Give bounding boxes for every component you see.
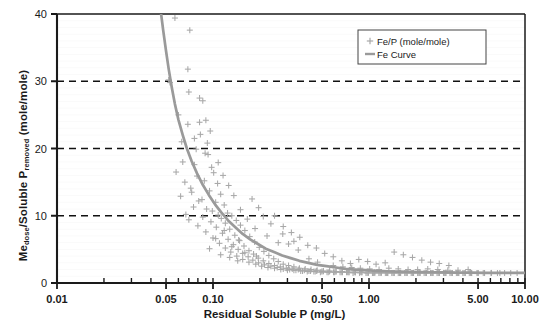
data-point-plus xyxy=(253,261,259,267)
x-tick-label: 0.05 xyxy=(155,293,176,305)
data-point-plus xyxy=(221,202,227,208)
data-point-plus xyxy=(189,189,195,195)
data-point-plus xyxy=(193,146,199,152)
data-point-plus xyxy=(186,89,192,95)
data-point-plus xyxy=(322,250,328,256)
data-point-plus xyxy=(218,191,224,197)
data-point-plus xyxy=(207,246,213,252)
chart-figure: 0102030400.010.050.100.501.005.0010.00Fe… xyxy=(0,0,549,331)
data-point-plus xyxy=(203,229,209,235)
data-point-plus xyxy=(280,224,286,230)
data-point-plus xyxy=(400,252,406,258)
data-point-plus xyxy=(205,152,211,158)
data-point-plus xyxy=(236,237,242,243)
data-point-plus xyxy=(180,159,186,165)
data-point-plus xyxy=(297,234,303,240)
x-tick-label: 0.10 xyxy=(202,293,223,305)
data-point-plus xyxy=(272,213,278,219)
data-point-plus xyxy=(226,182,232,188)
data-point-plus xyxy=(260,213,266,219)
data-point-plus xyxy=(436,260,442,266)
data-point-plus xyxy=(271,256,277,262)
data-point-plus xyxy=(222,245,228,251)
data-point-plus xyxy=(306,256,312,262)
data-point-plus xyxy=(182,179,188,185)
data-point-plus xyxy=(314,268,320,274)
data-point-plus xyxy=(409,254,415,260)
data-point-plus xyxy=(200,98,206,104)
legend-label-fe-curve: Fe Curve xyxy=(377,49,416,60)
y-tick-label: 20 xyxy=(35,143,47,155)
data-point-plus xyxy=(237,207,243,213)
data-point-plus xyxy=(211,170,217,176)
data-point-plus xyxy=(240,256,246,262)
x-tick-label: 0.01 xyxy=(46,293,67,305)
data-point-plus xyxy=(295,247,301,253)
data-point-plus xyxy=(229,213,235,219)
y-axis-label: Medose/Soluble Premoved (mole/mole) xyxy=(12,0,36,331)
data-point-plus xyxy=(197,131,203,137)
x-tick-label: 1.00 xyxy=(358,293,379,305)
data-point-plus xyxy=(216,240,222,246)
data-point-plus xyxy=(185,121,191,127)
data-point-plus xyxy=(172,15,178,21)
data-point-plus xyxy=(231,193,237,199)
data-point-plus xyxy=(330,254,336,260)
y-axis-label-tail: (mole/mole) xyxy=(17,70,29,139)
data-point-plus xyxy=(382,260,388,266)
y-axis-label-sub-dose: dose xyxy=(22,227,31,245)
data-point-plus xyxy=(208,219,214,225)
data-point-plus xyxy=(365,258,371,264)
data-point-plus xyxy=(225,236,231,242)
data-point-plus xyxy=(215,180,221,186)
data-point-plus xyxy=(196,198,202,204)
data-point-plus xyxy=(288,230,294,236)
data-point-plus xyxy=(220,172,226,178)
data-point-plus xyxy=(446,263,452,269)
data-point-plus xyxy=(241,243,247,249)
data-point-plus xyxy=(187,27,193,33)
x-tick-label: 5.00 xyxy=(467,293,488,305)
data-point-plus xyxy=(232,232,238,238)
data-point-plus xyxy=(391,249,397,255)
data-point-plus xyxy=(245,254,251,260)
data-point-plus xyxy=(356,256,362,262)
data-point-plus xyxy=(419,257,425,263)
data-point-plus xyxy=(256,205,262,211)
x-tick-label: 0.50 xyxy=(311,293,332,305)
y-tick-label: 10 xyxy=(35,210,47,222)
data-point-plus xyxy=(227,226,233,232)
chart-canvas: 0102030400.010.050.100.501.005.0010.00Fe… xyxy=(0,0,549,331)
data-point-plus xyxy=(203,117,209,123)
data-point-plus xyxy=(373,261,379,267)
data-point-plus xyxy=(237,222,243,228)
data-point-plus xyxy=(264,233,270,239)
data-point-plus xyxy=(286,241,292,247)
data-point-plus xyxy=(275,258,281,264)
data-point-plus xyxy=(259,263,265,269)
data-point-plus xyxy=(266,252,272,258)
data-point-plus xyxy=(428,259,434,265)
data-point-plus xyxy=(244,216,250,222)
data-point-plus xyxy=(188,185,194,191)
data-point-plus xyxy=(234,253,240,259)
data-point-plus xyxy=(173,169,179,175)
data-point-plus xyxy=(305,242,311,248)
data-point-plus xyxy=(252,226,258,232)
data-point-plus xyxy=(227,254,233,260)
data-point-plus xyxy=(191,135,197,141)
data-point-plus xyxy=(235,246,241,252)
data-point-plus xyxy=(209,164,215,170)
data-point-plus xyxy=(185,66,191,72)
x-tick-label: 10.00 xyxy=(511,293,539,305)
y-tick-label: 0 xyxy=(41,277,47,289)
data-point-plus xyxy=(178,193,184,199)
data-point-plus xyxy=(291,238,297,244)
legend-label-fe-p: Fe/P (mole/mole) xyxy=(377,36,450,47)
y-axis-label-main: Me xyxy=(17,245,29,261)
data-point-plus xyxy=(199,197,205,203)
data-point-plus xyxy=(195,223,201,229)
data-point-plus xyxy=(207,128,213,134)
data-point-plus xyxy=(218,252,224,258)
data-point-plus xyxy=(347,260,353,266)
